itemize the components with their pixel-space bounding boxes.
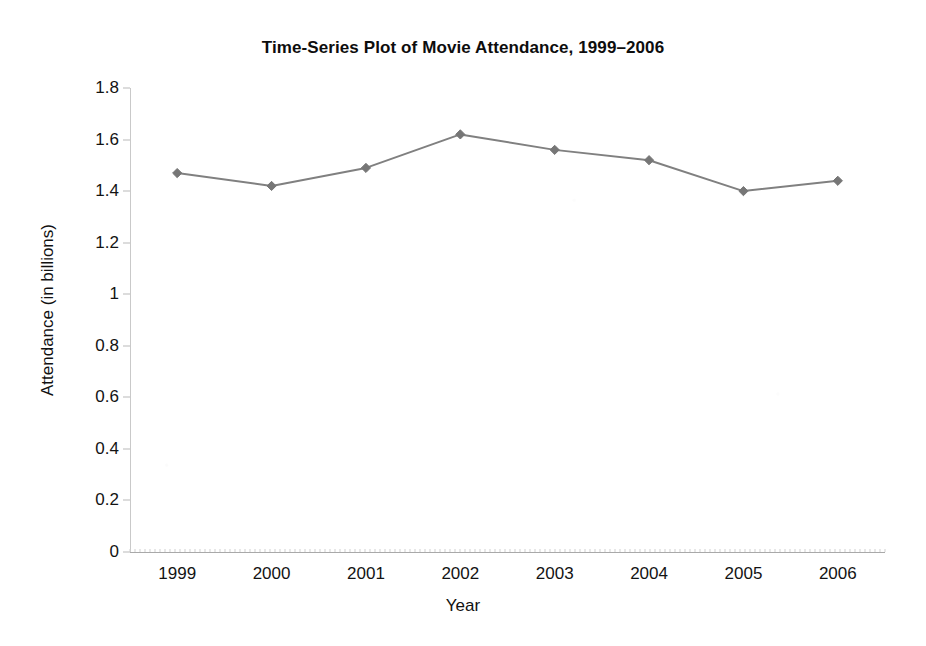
y-tick-mark xyxy=(123,448,130,449)
y-tick-mark xyxy=(123,397,130,398)
y-tick-mark xyxy=(123,88,130,89)
y-tick-label: 1.4 xyxy=(95,181,119,201)
y-tick-label: 1.8 xyxy=(95,78,119,98)
x-tick-label: 2000 xyxy=(253,564,291,584)
y-tick-mark xyxy=(123,552,130,553)
data-point-marker xyxy=(739,187,748,196)
y-tick-label: 1.2 xyxy=(95,233,119,253)
y-tick-mark xyxy=(123,294,130,295)
chart-title: Time-Series Plot of Movie Attendance, 19… xyxy=(0,38,926,58)
x-tick-label: 2005 xyxy=(725,564,763,584)
data-point-marker xyxy=(550,145,559,154)
y-tick-label: 1.6 xyxy=(95,130,119,150)
data-point-marker xyxy=(173,168,182,177)
y-tick-label: 0 xyxy=(110,542,119,562)
y-axis-label: Attendance (in billions) xyxy=(38,120,58,500)
x-tick-label: 2001 xyxy=(347,564,385,584)
data-point-marker xyxy=(644,156,653,165)
y-tick-mark xyxy=(123,191,130,192)
plot-area: 00.20.40.60.811.21.41.61.8 1999200020012… xyxy=(130,88,885,552)
y-tick-label: 0.4 xyxy=(95,439,119,459)
y-tick-mark xyxy=(123,242,130,243)
x-tick-label: 2003 xyxy=(536,564,574,584)
x-tick-label: 2002 xyxy=(441,564,479,584)
x-axis-minor-ticks xyxy=(130,549,885,552)
data-point-marker xyxy=(456,130,465,139)
x-tick-label: 2006 xyxy=(819,564,857,584)
series-line-movie-attendance xyxy=(130,88,885,552)
data-line xyxy=(177,134,838,191)
y-tick-mark xyxy=(123,345,130,346)
y-tick-mark xyxy=(123,500,130,501)
x-axis-line xyxy=(130,552,885,553)
data-point-marker xyxy=(267,181,276,190)
x-axis-label: Year xyxy=(0,596,926,616)
data-point-marker xyxy=(361,163,370,172)
y-tick-label: 0.6 xyxy=(95,387,119,407)
data-point-marker xyxy=(833,176,842,185)
y-tick-mark xyxy=(123,139,130,140)
chart-figure: Time-Series Plot of Movie Attendance, 19… xyxy=(0,0,926,646)
x-tick-label: 1999 xyxy=(158,564,196,584)
x-tick-label: 2004 xyxy=(630,564,668,584)
y-tick-label: 1 xyxy=(110,284,119,304)
y-tick-label: 0.2 xyxy=(95,490,119,510)
y-tick-label: 0.8 xyxy=(95,336,119,356)
